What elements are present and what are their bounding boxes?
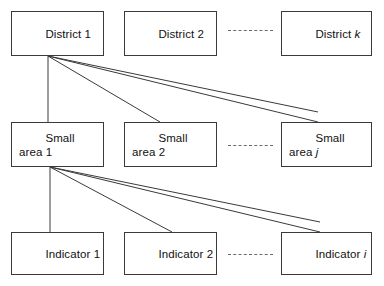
indicator-row-ellipsis: [228, 254, 273, 255]
node-district-1-label: District 1: [19, 13, 103, 55]
node-small-area-2-label: Small area 2: [132, 117, 216, 173]
hierarchy-diagram: District 1 District 2 District k Small a…: [0, 0, 384, 286]
node-district-2[interactable]: District 2: [124, 11, 217, 56]
node-district-1[interactable]: District 1: [11, 11, 104, 56]
node-indicator-2[interactable]: Indicator 2: [124, 232, 217, 275]
node-district-k-label: District k: [289, 13, 371, 55]
node-small-area-j[interactable]: Small area j: [281, 122, 372, 167]
node-district-2-label: District 2: [132, 13, 216, 55]
connector-area1-to-indicatori-upper: [50, 167, 320, 222]
node-indicator-2-label: Indicator 2: [132, 233, 216, 275]
node-indicator-1[interactable]: Indicator 1: [11, 232, 104, 275]
node-district-k[interactable]: District k: [281, 11, 372, 56]
connector-district1-to-areaj: [48, 56, 318, 122]
node-indicator-1-label: Indicator 1: [19, 233, 103, 275]
node-small-area-1[interactable]: Small area 1: [11, 122, 104, 167]
node-small-area-j-label: Small area j: [289, 117, 371, 173]
connector-area1-to-indicatori: [50, 167, 320, 232]
node-indicator-i-label: Indicator i: [289, 233, 371, 275]
connector-area1-to-indicator2: [50, 167, 172, 232]
connector-district1-to-areaj-upper: [48, 56, 318, 112]
node-indicator-i[interactable]: Indicator i: [281, 232, 372, 275]
district-row-ellipsis: [228, 30, 273, 31]
connector-district1-to-area2: [48, 56, 160, 122]
node-small-area-1-label: Small area 1: [19, 117, 103, 173]
node-small-area-2[interactable]: Small area 2: [124, 122, 217, 167]
small-area-row-ellipsis: [228, 145, 273, 146]
